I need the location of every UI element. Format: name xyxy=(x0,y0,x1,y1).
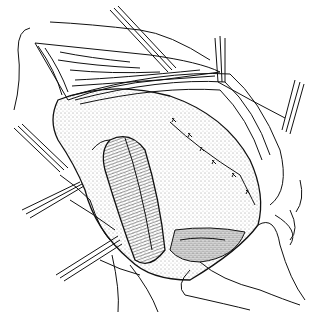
bottom-tissue xyxy=(170,228,245,262)
skin-contour xyxy=(14,28,30,110)
illustration-svg xyxy=(0,0,324,312)
surgical-illustration xyxy=(0,0,324,312)
